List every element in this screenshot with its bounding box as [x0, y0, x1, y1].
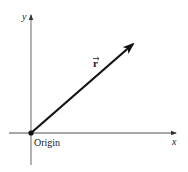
- origin-point: [28, 130, 33, 135]
- position-vector-arrow: [31, 44, 133, 133]
- origin-label: Origin: [34, 137, 60, 148]
- y-axis-label: y: [21, 11, 27, 22]
- position-vector-diagram: y x r Origin: [0, 0, 188, 172]
- x-axis-label: x: [171, 136, 177, 147]
- vector-label: r: [93, 57, 99, 69]
